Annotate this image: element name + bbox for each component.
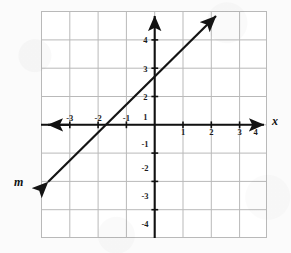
coordinate-plane-svg: -3 -2 -1 1 2 3 4 4 3 2 1 -1 -2 -3 -4 x m [0,0,291,253]
y-tick-label-neg4: -4 [141,219,149,229]
graph-canvas: -3 -2 -1 1 2 3 4 4 3 2 1 -1 -2 -3 -4 x m [0,0,291,253]
y-tick-label-neg2: -2 [141,163,148,173]
x-tick-label-3: 3 [237,127,241,137]
line-label-m: m [14,175,23,189]
x-tick-label-1: 1 [181,127,185,137]
x-tick-label-neg1: -1 [123,113,130,123]
y-tick-label-2: 2 [143,92,147,102]
x-axis-label: x [271,114,278,128]
x-tick-label-neg3: -3 [66,113,73,123]
y-tick-label-1: 1 [143,112,147,122]
x-tick-label-2: 2 [209,127,213,137]
x-tick-label-neg2: -2 [95,113,102,123]
y-tick-label-neg3: -3 [141,191,148,201]
y-tick-label-neg1: -1 [141,139,148,149]
y-tick-label-3: 3 [143,64,147,74]
